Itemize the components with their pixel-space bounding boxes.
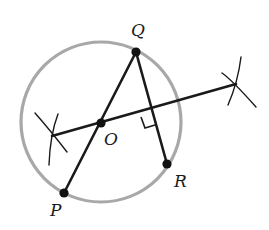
construction-arc	[222, 73, 256, 107]
label-r: R	[173, 171, 187, 191]
point-q	[131, 47, 140, 56]
label-q: Q	[131, 20, 145, 40]
point-p	[59, 188, 68, 197]
construction-arc	[228, 57, 241, 105]
point-r	[162, 159, 171, 168]
label-o: O	[104, 129, 118, 149]
geometry-diagram: QOPR	[0, 0, 269, 230]
label-p: P	[49, 200, 62, 220]
segment-bisector	[52, 84, 236, 136]
right-angle-marker	[141, 117, 155, 128]
point-o	[96, 118, 105, 127]
